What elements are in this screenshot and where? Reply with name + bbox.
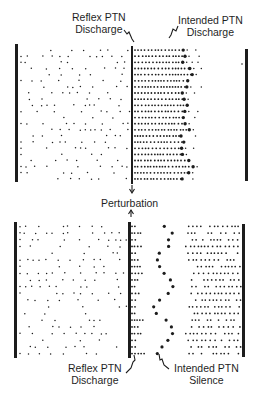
spike-raster — [0, 0, 260, 399]
